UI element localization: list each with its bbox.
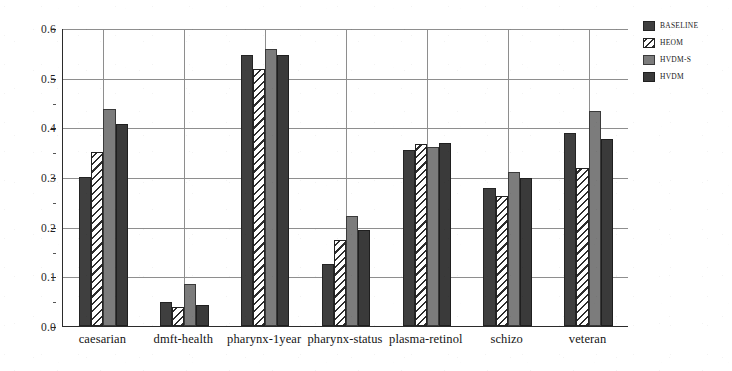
bar-pharynx-status-heom (334, 240, 346, 326)
y-axis-tick-mark (51, 79, 56, 80)
bar-plasma-retinol-hvdm (439, 143, 451, 326)
legend-item-hvdm: HVDM (643, 69, 729, 84)
bar-caesarian-heom (91, 152, 103, 326)
bar-veteran-hvdm (601, 139, 613, 326)
bar-plasma-retinol-hvdm-s (427, 147, 439, 326)
bar-dmft-health-hvdm-s (184, 284, 196, 326)
legend-item-hvdm-s: HVDM-S (643, 52, 729, 67)
legend-item-heom: HEOM (643, 35, 729, 50)
legend-label: HVDM-S (660, 55, 691, 64)
bar-pharynx-1year-hvdm-s (265, 49, 277, 326)
bar-chart: 0.00.10.20.30.40.50.6 caesariandmft-heal… (0, 0, 732, 371)
bar-pharynx-status-hvdm (358, 230, 370, 326)
legend-label: HVDM (660, 72, 684, 81)
bar-plasma-retinol-heom (415, 144, 427, 326)
bar-caesarian-hvdm-s (103, 109, 115, 326)
bar-group-schizo (483, 29, 532, 326)
bar-group-plasma-retinol (403, 29, 452, 326)
y-axis-minor-tick (53, 253, 56, 254)
bar-schizo-hvdm-s (508, 172, 520, 326)
bar-group-pharynx-status (322, 29, 371, 326)
legend-item-baseline: BASELINE (643, 18, 729, 33)
bar-caesarian-hvdm (116, 124, 128, 326)
legend-swatch-icon (643, 55, 655, 65)
x-axis-tick-label: caesarian (79, 332, 126, 347)
bar-group-caesarian (79, 29, 128, 326)
bar-pharynx-status-baseline (322, 264, 334, 326)
y-axis-tick-mark (51, 178, 56, 179)
bar-veteran-baseline (564, 133, 576, 326)
bar-veteran-heom (576, 168, 588, 326)
legend-label: HEOM (660, 38, 683, 47)
bar-veteran-hvdm-s (589, 111, 601, 326)
y-axis-tick-mark (51, 228, 56, 229)
y-axis-tick-mark (51, 327, 56, 328)
y-axis: 0.00.10.20.30.40.50.6 (0, 29, 56, 327)
bar-group-dmft-health (160, 29, 209, 326)
bar-schizo-baseline (483, 188, 495, 326)
bar-pharynx-1year-hvdm (277, 55, 289, 326)
bar-dmft-health-hvdm (196, 305, 208, 326)
bar-dmft-health-baseline (160, 302, 172, 326)
y-axis-minor-tick (53, 104, 56, 105)
y-axis-tick-mark (51, 277, 56, 278)
x-axis: caesariandmft-healthpharynx-1yearpharynx… (62, 330, 628, 354)
bar-pharynx-status-hvdm-s (346, 216, 358, 326)
legend-swatch-icon (643, 21, 655, 31)
x-axis-tick-label: plasma-retinol (389, 332, 463, 347)
x-axis-tick-label: dmft-health (154, 332, 213, 347)
legend-label: BASELINE (660, 21, 698, 30)
bar-group-veteran (564, 29, 613, 326)
bar-caesarian-baseline (79, 177, 91, 326)
x-axis-tick-label: pharynx-1year (227, 332, 301, 347)
legend-swatch-icon (643, 72, 655, 82)
bar-schizo-hvdm (520, 178, 532, 327)
bar-group-pharynx-1year (241, 29, 290, 326)
y-axis-minor-tick (53, 302, 56, 303)
bar-plasma-retinol-baseline (403, 150, 415, 326)
bar-pharynx-1year-baseline (241, 55, 253, 326)
legend: BASELINEHEOMHVDM-SHVDM (643, 18, 729, 86)
y-axis-minor-tick (53, 203, 56, 204)
x-axis-tick-label: veteran (569, 332, 606, 347)
bar-dmft-health-heom (172, 307, 184, 326)
y-axis-tick-mark (51, 128, 56, 129)
x-axis-tick-label: schizo (490, 332, 523, 347)
bar-pharynx-1year-heom (253, 69, 265, 326)
y-axis-tick-mark (51, 29, 56, 30)
legend-swatch-icon (643, 38, 655, 48)
y-axis-minor-tick (53, 153, 56, 154)
plot-area (62, 29, 628, 327)
bar-schizo-heom (496, 196, 508, 326)
x-axis-tick-label: pharynx-status (308, 332, 383, 347)
